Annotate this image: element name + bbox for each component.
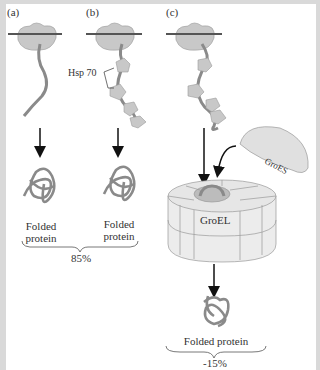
folded-protein-c-label: Folded protein bbox=[166, 335, 266, 347]
hsp70-molecules bbox=[110, 58, 146, 128]
chaperone-folding-diagram bbox=[0, 0, 320, 370]
ribosome-b bbox=[86, 23, 142, 50]
folded-protein-b bbox=[104, 167, 134, 200]
panel-b-tag: (b) bbox=[86, 6, 99, 18]
ribosome-a bbox=[8, 23, 62, 50]
folded-protein-a bbox=[24, 169, 54, 202]
ribosome-c bbox=[166, 23, 222, 50]
panel-a-tag: (a) bbox=[7, 6, 19, 18]
folded-protein-c bbox=[204, 296, 228, 326]
folded-protein-b-label: Folded protein bbox=[94, 218, 144, 242]
percent-ab: 85% bbox=[66, 252, 96, 264]
polypeptide-chain-a bbox=[24, 44, 47, 116]
hsp70-molecules-c bbox=[188, 58, 226, 124]
hsp70-label: Hsp 70 bbox=[68, 67, 97, 79]
percent-c: -15% bbox=[200, 357, 230, 369]
arrow-groes bbox=[218, 146, 236, 172]
panel-c-tag: (c) bbox=[166, 6, 178, 18]
groel-label: GroEL bbox=[200, 214, 231, 226]
folded-protein-a-label: Folded protein bbox=[16, 220, 66, 244]
hsp70-bracket bbox=[104, 68, 114, 88]
